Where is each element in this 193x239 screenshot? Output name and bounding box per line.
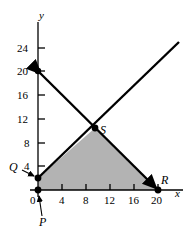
x-tick-label-20: 20: [151, 195, 162, 206]
point-y-intercept-20: [35, 68, 41, 74]
x-tick-label-12: 12: [104, 195, 115, 206]
y-axis-ticks: [38, 48, 45, 166]
x-tick-label-16: 16: [128, 195, 139, 206]
y-axis-label: y: [39, 10, 44, 21]
point-Q: [35, 175, 42, 182]
point-label-R: R: [161, 174, 168, 186]
y-tick-label-20: 20: [17, 66, 28, 77]
x-tick-label-8: 8: [83, 195, 89, 206]
x-tick-label-0: 0: [30, 195, 36, 206]
p-leader-line: [39, 196, 42, 216]
point-R: [155, 187, 162, 194]
point-label-S: S: [100, 124, 106, 136]
point-S: [92, 125, 99, 132]
point-label-P: P: [39, 216, 46, 228]
coordinate-plane-figure: 24 20 16 12 8 4 0 4 8 12 16 20 y x Q P R…: [0, 0, 193, 239]
y-tick-label-12: 12: [17, 114, 28, 125]
y-tick-label-8: 8: [24, 138, 30, 149]
y-tick-label-16: 16: [17, 90, 28, 101]
point-label-Q: Q: [9, 161, 18, 173]
y-tick-label-24: 24: [17, 43, 28, 54]
figure-canvas: [0, 0, 193, 239]
point-P: [35, 187, 42, 194]
x-tick-label-4: 4: [59, 195, 65, 206]
y-tick-label-4: 4: [24, 161, 30, 172]
x-axis-label: x: [175, 188, 180, 199]
